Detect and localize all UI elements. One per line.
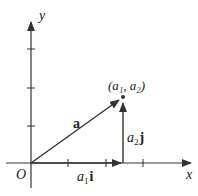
point-label: (a₁, a₂) [108, 78, 145, 93]
component-x-label: a1i [77, 169, 94, 186]
vector-a-arrow [31, 100, 119, 163]
vector-a-label: a [73, 116, 80, 131]
origin-label: O [16, 167, 26, 182]
y-axis-label: y [37, 8, 46, 23]
component-y-label: a2j [127, 130, 144, 147]
x-axis-label: x [185, 167, 193, 182]
vector-diagram: y x O a (a₁, a₂) a1i a2j [0, 0, 198, 196]
point-marker [121, 95, 125, 99]
